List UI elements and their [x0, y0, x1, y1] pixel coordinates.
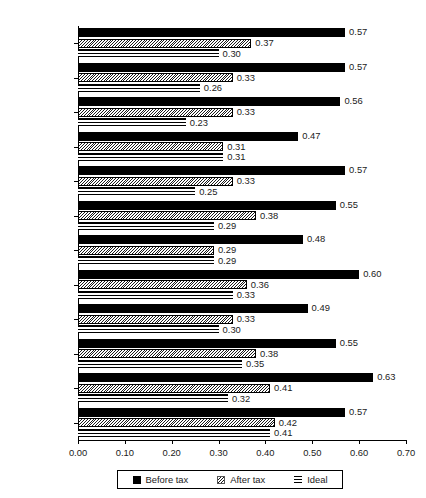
- bar-ideal: [78, 394, 228, 402]
- x-axis-tick: [312, 440, 313, 444]
- x-axis-tick: [359, 440, 360, 444]
- bar-ideal: [78, 187, 195, 195]
- bar-value-label-before-tax: 0.63: [377, 372, 395, 382]
- x-axis-tick-label: 0.70: [383, 447, 426, 458]
- legend-item-after-tax: After tax: [217, 475, 265, 485]
- bar-value-label-ideal: 0.33: [237, 290, 255, 300]
- legend-label-ideal: Ideal: [307, 475, 327, 485]
- bar-value-label-before-tax: 0.49: [312, 303, 330, 313]
- x-axis-tick-label: 0.40: [242, 447, 288, 458]
- legend-label-after-tax: After tax: [230, 475, 265, 485]
- bar-group: Denmark0.560.330.23: [78, 95, 406, 130]
- bar-value-label-after-tax: 0.33: [237, 73, 255, 83]
- bar-value-label-after-tax: 0.33: [237, 314, 255, 324]
- bar-after-tax: [78, 211, 256, 220]
- bar-value-label-ideal: 0.29: [218, 256, 236, 266]
- bar-ideal: [78, 256, 214, 264]
- legend-label-before-tax: Before tax: [146, 475, 189, 485]
- bar-value-label-ideal: 0.25: [199, 187, 217, 197]
- bar-value-label-before-tax: 0.56: [344, 96, 362, 106]
- bar-group: Netherlands0.570.330.25: [78, 164, 406, 199]
- bar-value-label-after-tax: 0.42: [279, 418, 297, 428]
- bar-value-label-ideal: 0.35: [246, 359, 264, 369]
- legend-item-before-tax: Before tax: [133, 475, 189, 485]
- x-axis-tick-label: 0.00: [55, 447, 101, 458]
- bar-value-label-after-tax: 0.38: [260, 349, 278, 359]
- bar-group: Norway0.570.370.30: [78, 26, 406, 61]
- bar-value-label-before-tax: 0.57: [349, 27, 367, 37]
- bar-ideal: [78, 360, 242, 368]
- bar-value-label-after-tax: 0.38: [260, 211, 278, 221]
- bar-after-tax: [78, 73, 233, 82]
- bar-before-tax: [78, 201, 336, 210]
- x-axis-tick: [172, 440, 173, 444]
- bar-group: US0.570.420.41: [78, 406, 406, 441]
- x-axis-tick: [265, 440, 266, 444]
- x-axis-tick-label: 0.10: [102, 447, 148, 458]
- bar-before-tax: [78, 28, 345, 37]
- x-axis-tick-label: 0.30: [196, 447, 242, 458]
- bar-before-tax: [78, 235, 303, 244]
- bar-group: Sweden0.570.330.26: [78, 61, 406, 96]
- x-axis-tick: [125, 440, 126, 444]
- bar-value-label-after-tax: 0.37: [255, 38, 273, 48]
- bar-value-label-ideal: 0.26: [204, 83, 222, 93]
- bar-value-label-ideal: 0.23: [190, 118, 208, 128]
- bar-after-tax: [78, 349, 256, 358]
- bar-before-tax: [78, 63, 345, 72]
- bar-value-label-after-tax: 0.41: [274, 383, 292, 393]
- chart-legend: Before tax After tax Ideal: [117, 470, 343, 489]
- legend-swatch-after-tax-icon: [217, 476, 225, 484]
- bar-after-tax: [78, 142, 223, 151]
- bar-before-tax: [78, 97, 340, 106]
- bar-before-tax: [78, 132, 298, 141]
- bar-after-tax: [78, 384, 270, 393]
- grouped-bar-chart: Norway0.570.370.30Sweden0.570.330.26Denm…: [0, 0, 426, 498]
- legend-item-ideal: Ideal: [294, 475, 327, 485]
- bar-value-label-after-tax: 0.33: [237, 176, 255, 186]
- bar-before-tax: [78, 166, 345, 175]
- bar-after-tax: [78, 177, 233, 186]
- bar-after-tax: [78, 108, 233, 117]
- bar-ideal: [78, 153, 223, 161]
- x-axis-line: [78, 440, 407, 441]
- bar-ideal: [78, 325, 219, 333]
- bar-value-label-ideal: 0.30: [223, 325, 241, 335]
- bar-ideal: [78, 84, 200, 92]
- bar-value-label-ideal: 0.29: [218, 221, 236, 231]
- bar-value-label-before-tax: 0.57: [349, 407, 367, 417]
- x-axis-tick-label: 0.50: [289, 447, 335, 458]
- bar-before-tax: [78, 304, 308, 313]
- bar-after-tax: [78, 418, 275, 427]
- plot-area: Norway0.570.370.30Sweden0.570.330.26Denm…: [78, 26, 406, 440]
- bar-after-tax: [78, 246, 214, 255]
- bar-value-label-after-tax: 0.33: [237, 107, 255, 117]
- x-axis-tick-label: 0.20: [149, 447, 195, 458]
- bar-group: France0.480.290.29: [78, 233, 406, 268]
- bar-group: UK0.630.410.32: [78, 371, 406, 406]
- bar-value-label-ideal: 0.41: [274, 428, 292, 438]
- x-axis-tick: [406, 440, 407, 444]
- x-axis-tick-label: 0.60: [336, 447, 382, 458]
- bar-before-tax: [78, 339, 336, 348]
- bar-after-tax: [78, 315, 233, 324]
- bar-group: Canada0.550.380.35: [78, 337, 406, 372]
- bar-value-label-after-tax: 0.31: [227, 142, 245, 152]
- x-axis-tick: [219, 440, 220, 444]
- legend-swatch-before-tax-icon: [133, 476, 141, 484]
- bar-ideal: [78, 429, 270, 437]
- bar-ideal: [78, 118, 186, 126]
- bar-after-tax: [78, 39, 251, 48]
- bar-value-label-before-tax: 0.57: [349, 165, 367, 175]
- bar-value-label-ideal: 0.30: [223, 49, 241, 59]
- bar-value-label-before-tax: 0.60: [363, 269, 381, 279]
- bar-value-label-after-tax: 0.36: [251, 280, 269, 290]
- bar-after-tax: [78, 280, 247, 289]
- bar-value-label-before-tax: 0.57: [349, 62, 367, 72]
- legend-swatch-ideal-icon: [294, 476, 302, 483]
- bar-value-label-ideal: 0.31: [227, 152, 245, 162]
- bar-before-tax: [78, 373, 373, 382]
- bar-group: Germany0.600.360.33: [78, 268, 406, 303]
- bar-value-label-before-tax: 0.55: [340, 338, 358, 348]
- bar-before-tax: [78, 270, 359, 279]
